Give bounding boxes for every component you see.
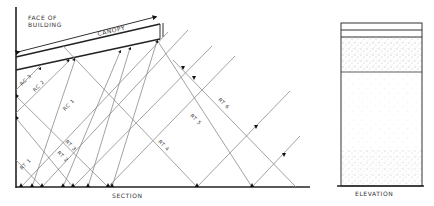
face-of-building-label-2: BUILDING (28, 21, 62, 28)
section-drawing: FACE OF BUILDING CANOPY RC 3 RC 2 RC 1 R… (16, 7, 310, 199)
sun-rays (16, 30, 300, 187)
elevation-drawing: ELEVATION (337, 23, 424, 197)
rt1-label: RT 1 (18, 157, 32, 171)
rt5-label: RT 5 (189, 112, 203, 126)
rc1-label: RC 1 (61, 98, 75, 112)
rt4-label: RT 4 (157, 138, 171, 152)
dense-stipple-band (341, 37, 422, 72)
sun-reflection-diagram: FACE OF BUILDING CANOPY RC 3 RC 2 RC 1 R… (0, 0, 434, 206)
rc3-label: RC 3 (18, 73, 32, 87)
section-title: SECTION (112, 192, 143, 199)
rt2-label: RT 2 (56, 149, 70, 163)
face-of-building-label: FACE OF (28, 14, 57, 21)
elevation-title: ELEVATION (355, 190, 393, 197)
